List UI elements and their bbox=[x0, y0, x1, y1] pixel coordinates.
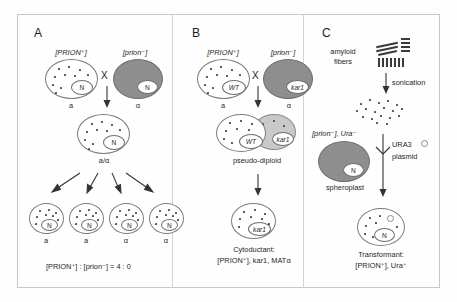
panel-a-cross-symbol: X bbox=[101, 70, 108, 81]
panel-b-parent1-cell: WT bbox=[197, 59, 250, 99]
panel-c-recipient-cell-label: spheroplast bbox=[312, 183, 378, 192]
figure-root: A [PRION⁺] [prion⁻] N a X N α bbox=[0, 0, 457, 302]
panel-a-progeny-label-4: α bbox=[154, 236, 178, 245]
panel-a-progeny-cell-4: N bbox=[149, 203, 184, 234]
panel-c-product-caption-line1: Transformant: bbox=[333, 250, 429, 259]
panel-b-cytoduction-arrow bbox=[249, 172, 267, 198]
panel-b-heterokaryon-recipient-lobe: WT bbox=[216, 114, 266, 152]
panel-a-progeny-cell-3: N bbox=[109, 203, 144, 234]
panel-b-product-nucleus: kar1 bbox=[248, 222, 271, 236]
panel-letter-b: B bbox=[192, 26, 200, 40]
panel-b-parent1-genotype: [PRION⁺] bbox=[192, 48, 254, 57]
panel-b-heterokaryon-nucleus-kar1: kar1 bbox=[272, 132, 294, 146]
panel-a-zygote-cell: N bbox=[77, 114, 130, 154]
panel-a-zygote-nucleus: N bbox=[103, 135, 125, 150]
panel-a-progeny-cell-1: N bbox=[29, 203, 64, 234]
panel-a-parent2-genotype: [prion⁻] bbox=[110, 48, 160, 57]
panel-b-product-cell: kar1 bbox=[231, 203, 276, 239]
panel-letter-a: A bbox=[34, 26, 42, 40]
panel-a-progeny-nucleus-3: N bbox=[121, 219, 138, 231]
panel-a-parent1-nucleus: N bbox=[71, 80, 93, 95]
panel-c-recipient-cell: N bbox=[318, 141, 370, 182]
panel-a-mating-arrow bbox=[98, 84, 116, 110]
panel-b-parent2-cell: kar1 bbox=[263, 59, 313, 99]
panel-a-parent2-nucleus: N bbox=[137, 80, 158, 94]
panel-b-parent1-mating-type: a bbox=[210, 101, 236, 110]
panel-a-progeny-nucleus-1: N bbox=[41, 219, 58, 231]
panel-b-product-caption-line2: [PRION⁺], kar1, MATα bbox=[194, 256, 314, 265]
panel-divider-a-b bbox=[172, 14, 173, 288]
panel-c-transformation-arrow bbox=[372, 132, 396, 198]
panel-a-ratio: [PRION⁺] : [prion⁻] = 4 : 0 bbox=[46, 262, 131, 271]
panel-a-progeny-label-2: a bbox=[74, 236, 98, 245]
panel-c-recipient-nucleus: N bbox=[343, 163, 364, 177]
panel-a-progeny-label-1: a bbox=[34, 236, 58, 245]
panel-c-fibers-label-line2: fibers bbox=[316, 57, 370, 66]
panel-a-parent1-mating-type: a bbox=[58, 101, 84, 110]
panel-b-heterokaryon-label: pseudo-diploid bbox=[213, 156, 301, 165]
panel-a-progeny-nucleus-2: N bbox=[81, 219, 98, 231]
panel-a-parent2-cell: N bbox=[113, 59, 163, 99]
panel-a-meiosis-arrows bbox=[30, 170, 160, 198]
panel-b-product-caption-line1: Cytoductant: bbox=[199, 245, 309, 254]
panel-c-step-label: sonication bbox=[392, 78, 452, 87]
panel-a-zygote-label: a/α bbox=[88, 156, 120, 165]
panel-c-product-nucleus: N bbox=[374, 228, 395, 242]
panel-a-parent1-genotype: [PRION⁺] bbox=[40, 48, 102, 57]
panel-b-parent2-mating-type: α bbox=[276, 101, 302, 110]
panel-letter-c: C bbox=[322, 26, 331, 40]
panel-c-plasmid-label-line2: plasmid bbox=[392, 152, 432, 161]
panel-a-parent2-mating-type: α bbox=[125, 101, 151, 110]
panel-b-parent2-genotype: [prion⁻] bbox=[258, 48, 308, 57]
plasmid-circle-icon bbox=[421, 140, 428, 147]
panel-b-heterokaryon-nucleus-wt: WT bbox=[239, 134, 263, 149]
panel-a-progeny-cell-2: N bbox=[69, 203, 104, 234]
panel-b-mating-arrow bbox=[249, 84, 267, 110]
panel-a-progeny-nucleus-4: N bbox=[161, 219, 178, 231]
panel-b-parent2-nucleus: kar1 bbox=[286, 80, 309, 94]
panel-a-progeny-label-3: α bbox=[114, 236, 138, 245]
panel-b-cross-symbol: X bbox=[252, 70, 259, 81]
panel-c-product-plasmid-icon bbox=[387, 215, 394, 222]
panel-b-parent1-nucleus: WT bbox=[222, 80, 246, 95]
panel-a-parent1-cell: N bbox=[45, 59, 98, 99]
panel-c-fibers-label-line1: amyloid bbox=[316, 47, 370, 56]
panel-c-product-caption-line2: [PRION⁺], Ura⁺ bbox=[328, 261, 434, 270]
panel-c-product-cell: N bbox=[357, 208, 405, 246]
